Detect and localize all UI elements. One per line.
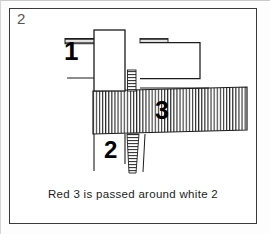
cord-label-1: 1	[64, 38, 78, 64]
cord-label-2: 2	[104, 138, 117, 162]
cord-label-3: 3	[155, 98, 169, 123]
figure-panel: 2	[0, 0, 270, 234]
strand-1-white-loop	[65, 39, 209, 89]
strand-3-red-band	[93, 87, 247, 134]
figure-caption: Red 3 is passed around white 2	[9, 188, 257, 200]
